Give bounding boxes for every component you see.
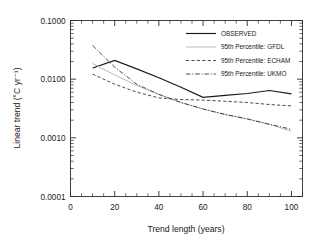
x-tick-label: 100 bbox=[285, 203, 299, 212]
chart-figure: 0.00010.00100.01000.1000 020406080100 OB… bbox=[0, 0, 319, 244]
linear-trend-line-chart: 0.00010.00100.01000.1000 020406080100 OB… bbox=[0, 0, 319, 244]
x-axis-title: Trend length (years) bbox=[147, 224, 224, 234]
legend-label: 95th Percentile: GFDL bbox=[221, 43, 285, 50]
y-tick-label: 0.1000 bbox=[40, 17, 65, 26]
legend-label: 95th Percentile: ECHAM bbox=[221, 57, 290, 64]
legend-label: OBSERVED bbox=[221, 30, 257, 37]
y-axis-tick-labels: 0.00010.00100.01000.1000 bbox=[40, 17, 65, 202]
x-tick-label: 40 bbox=[154, 203, 164, 212]
x-tick-label: 60 bbox=[199, 203, 209, 212]
y-tick-label: 0.0010 bbox=[40, 134, 65, 143]
x-tick-label: 20 bbox=[110, 203, 120, 212]
y-tick-label: 0.0100 bbox=[40, 75, 65, 84]
legend-label: 95th Percentile: UKMO bbox=[221, 70, 286, 77]
y-axis-title: Linear trend (°C yr⁻¹) bbox=[12, 67, 22, 148]
x-tick-label: 80 bbox=[243, 203, 253, 212]
y-tick-label: 0.0001 bbox=[40, 193, 65, 202]
x-axis-tick-labels: 020406080100 bbox=[68, 203, 299, 212]
chart-legend: OBSERVED95th Percentile: GFDL95th Percen… bbox=[186, 30, 290, 78]
x-tick-label: 0 bbox=[68, 203, 73, 212]
